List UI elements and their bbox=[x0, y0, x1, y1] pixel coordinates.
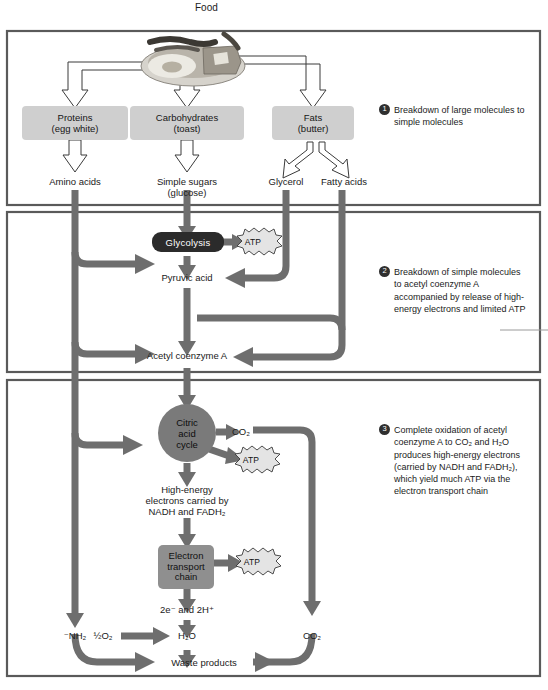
arrowhead-glycerol-pyruvic bbox=[225, 268, 245, 288]
fats-label-line1: Fats bbox=[304, 112, 322, 123]
callout-2-number: 2 bbox=[379, 266, 390, 277]
diagram-canvas: Food Proteins (egg white) Carbohydrates … bbox=[0, 0, 548, 690]
food-title: Food bbox=[195, 2, 218, 13]
atp-label-glycolysis: ATP bbox=[236, 232, 270, 251]
arrowhead-amino-electrons bbox=[123, 435, 143, 455]
electron-transport-chain-box: Electron transport chain bbox=[158, 545, 214, 589]
label-water: H₂O bbox=[178, 630, 196, 641]
label-2e-2h: 2e⁻ and 2H⁺ bbox=[160, 604, 214, 615]
label-amino-acids: Amino acids bbox=[49, 176, 101, 187]
proteins-label-line1: Proteins bbox=[58, 112, 93, 123]
fats-label-line2: (butter) bbox=[298, 123, 329, 134]
amino-to-pyruvic bbox=[75, 252, 137, 264]
label-acetyl-coenzyme-a: Acetyl coenzyme A bbox=[147, 350, 227, 361]
label-fatty-acids: Fatty acids bbox=[321, 176, 367, 187]
food-photo bbox=[141, 34, 245, 86]
label-co2-waste: CO₂ bbox=[303, 630, 321, 641]
callout-1-number: 1 bbox=[379, 104, 390, 115]
substrate-box-carbohydrates: Carbohydrates (toast) bbox=[130, 106, 244, 140]
glycolysis-box: Glycolysis bbox=[152, 232, 224, 252]
citric-acid-cycle-circle: Citric acid cycle bbox=[158, 404, 216, 462]
label-amino-group: ⁻NH₂ bbox=[64, 630, 86, 641]
callout-stage-3: 3 Complete oxidation of acetyl coenzyme … bbox=[379, 424, 529, 497]
arrowhead-amino-nh2 bbox=[66, 613, 84, 628]
substrate-box-proteins: Proteins (egg white) bbox=[22, 106, 128, 140]
label-high-energy-electrons: High-energy electrons carried by NADH an… bbox=[117, 484, 257, 517]
simple-sugars-line1: Simple sugars bbox=[157, 176, 217, 187]
arrowhead-amino-pyruvic bbox=[135, 254, 155, 274]
amino-to-electrons bbox=[75, 433, 125, 445]
fattyacids-to-acetylcoa bbox=[251, 190, 342, 357]
arrowhead-nh2-waste bbox=[135, 652, 155, 672]
electrons-line3: NADH and FADH₂ bbox=[148, 506, 225, 517]
callout-2-text: Breakdown of simple molecules to acetyl … bbox=[394, 266, 529, 315]
arrowhead-co2-bottom bbox=[303, 601, 321, 616]
atp-label-citric: ATP bbox=[234, 450, 268, 469]
arrowhead-fattyacids-acetylcoa bbox=[233, 347, 253, 367]
label-oxygen: ½O₂ bbox=[94, 630, 113, 641]
callout-3-text: Complete oxidation of acetyl coenzyme A … bbox=[394, 424, 529, 497]
citric-line2: acid bbox=[178, 428, 195, 439]
arrowhead-co2-waste bbox=[255, 652, 275, 672]
label-waste-products: Waste products bbox=[171, 657, 237, 668]
callout-stage-2: 2 Breakdown of simple molecules to acety… bbox=[379, 266, 529, 315]
atp-text-glycolysis: ATP bbox=[236, 232, 270, 251]
simple-sugars-line2: (glucose) bbox=[167, 187, 206, 198]
amino-to-acetylcoa bbox=[75, 342, 137, 354]
atp-text-citric: ATP bbox=[234, 450, 268, 469]
etc-line2: transport bbox=[167, 561, 205, 572]
proteins-label-line2: (egg white) bbox=[52, 123, 99, 134]
atp-text-etc: ATP bbox=[235, 552, 269, 571]
atp-label-etc: ATP bbox=[235, 552, 269, 571]
callout-1-text: Breakdown of large molecules to simple m… bbox=[394, 104, 529, 128]
substrate-box-fats: Fats (butter) bbox=[272, 106, 354, 140]
citric-line1: Citric bbox=[176, 417, 198, 428]
carbohydrates-label-line1: Carbohydrates bbox=[156, 112, 218, 123]
electrons-line2: electrons carried by bbox=[146, 495, 229, 506]
label-co2-from-cycle: CO₂ bbox=[232, 426, 250, 437]
citric-line3: cycle bbox=[176, 439, 198, 450]
etc-line3: chain bbox=[175, 571, 198, 582]
label-simple-sugars: Simple sugars (glucose) bbox=[142, 176, 232, 198]
stage2-stub bbox=[197, 318, 342, 330]
etc-line1: Electron bbox=[169, 550, 204, 561]
label-glycerol: Glycerol bbox=[269, 176, 304, 187]
arrowhead-oxygen-water bbox=[153, 627, 170, 645]
carbohydrates-label-line2: (toast) bbox=[174, 123, 201, 134]
electrons-line1: High-energy bbox=[161, 484, 213, 495]
callout-3-number: 3 bbox=[379, 424, 390, 435]
callout-stage-1: 1 Breakdown of large molecules to simple… bbox=[379, 104, 529, 129]
label-pyruvic-acid: Pyruvic acid bbox=[161, 272, 212, 283]
